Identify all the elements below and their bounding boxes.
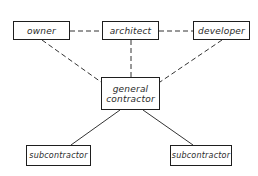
node-developer: developer [193, 21, 250, 40]
node-owner: owner [13, 21, 70, 40]
node-label-line2: contractor [106, 94, 155, 104]
node-label: subcontractor [29, 151, 87, 161]
node-subcontractor-2: subcontractor [170, 145, 232, 166]
node-label: owner [27, 26, 56, 36]
node-label: subcontractor [172, 151, 230, 161]
edge-gc-subcontractor-2 [143, 110, 193, 145]
edge-developer-general-contractor [160, 40, 222, 82]
edge-gc-subcontractor-1 [71, 110, 120, 145]
node-general-contractor: general contractor [101, 77, 160, 110]
node-label: developer [198, 26, 245, 36]
edge-owner-general-contractor [42, 40, 101, 82]
node-label-line1: general [113, 84, 149, 94]
node-label: architect [110, 26, 152, 36]
node-subcontractor-1: subcontractor [26, 145, 91, 166]
node-architect: architect [102, 21, 159, 40]
